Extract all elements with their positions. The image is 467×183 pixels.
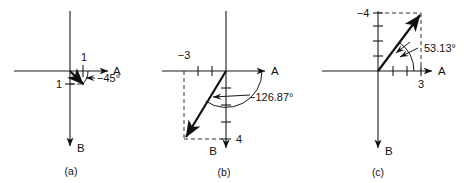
vector-diagram-figure: A B 1 1 −45° (a) bbox=[0, 0, 467, 183]
panel-b-value-a: −3 bbox=[178, 49, 191, 61]
panel-c-label-axis-b: B bbox=[385, 145, 393, 157]
panel-b-vector bbox=[186, 71, 226, 137]
panel-b-angle-label: −126.87° bbox=[249, 91, 293, 103]
panel-c-angle-label: 53.13° bbox=[424, 42, 456, 54]
panel-c-label-axis-a: A bbox=[438, 65, 446, 77]
figure-canvas: A B 1 1 −45° (a) bbox=[0, 0, 467, 183]
panel-c-vector bbox=[378, 15, 420, 71]
panel-c: A B −4 3 53.13° (c) bbox=[322, 7, 456, 178]
panel-b-label-axis-b: B bbox=[209, 145, 217, 157]
panel-a-angle-arc bbox=[83, 71, 88, 84]
panel-c-caption: (c) bbox=[372, 166, 384, 178]
panel-b: A B −3 4 −126.87° (b) bbox=[162, 11, 293, 178]
panel-a-angle-label: −45° bbox=[97, 72, 120, 84]
panel-a-vector bbox=[70, 71, 84, 85]
panel-b-label-axis-a: A bbox=[271, 65, 279, 77]
panel-c-angle-leader bbox=[400, 48, 418, 57]
panel-c-value-a: 3 bbox=[418, 78, 424, 90]
panel-b-caption: (b) bbox=[218, 166, 231, 178]
panel-a-value-a: 1 bbox=[81, 51, 87, 63]
panel-a-label-axis-b: B bbox=[77, 142, 85, 154]
panel-b-value-b: 4 bbox=[236, 133, 242, 145]
panel-a: A B 1 1 −45° (a) bbox=[14, 11, 121, 177]
panel-b-angle-leader bbox=[213, 95, 250, 97]
panel-c-value-b: −4 bbox=[357, 7, 370, 19]
panel-a-caption: (a) bbox=[65, 165, 78, 177]
panel-a-value-b: 1 bbox=[56, 78, 62, 90]
